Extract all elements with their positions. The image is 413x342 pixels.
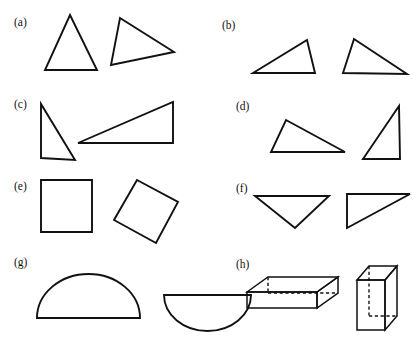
congruent-figures-diagram: (a) (b) (c) (d) (e) bbox=[0, 0, 413, 342]
triangle-b-left bbox=[253, 40, 315, 73]
prism-h-upright-front-face bbox=[357, 280, 385, 330]
square-e-left bbox=[41, 180, 92, 232]
semicircle-g-right bbox=[164, 295, 251, 331]
prism-h-upright bbox=[357, 266, 397, 330]
triangle-c-left bbox=[41, 104, 75, 160]
prism-h-flat-top-face bbox=[247, 277, 338, 292]
semicircle-g-left bbox=[37, 274, 140, 318]
triangle-d-left bbox=[271, 120, 345, 152]
panel-b: (b) bbox=[222, 19, 407, 74]
triangle-a-right bbox=[111, 18, 174, 65]
panel-h-label: (h) bbox=[236, 258, 250, 271]
prism-h-flat-front-face bbox=[247, 292, 317, 308]
panel-e-label: (e) bbox=[14, 180, 27, 193]
figure-sheet: (a) (b) (c) (d) (e) bbox=[0, 0, 413, 342]
panel-b-label: (b) bbox=[222, 19, 236, 32]
panel-c-label: (c) bbox=[14, 98, 27, 111]
triangle-b-right bbox=[343, 39, 407, 74]
prism-h-upright-right-face bbox=[385, 266, 397, 330]
triangle-f-left bbox=[255, 196, 329, 228]
prism-h-flat bbox=[247, 277, 338, 308]
triangle-a-left bbox=[45, 15, 97, 70]
panel-d-label: (d) bbox=[236, 100, 250, 113]
triangle-c-right bbox=[78, 102, 173, 143]
panel-f: (f) bbox=[236, 182, 410, 228]
triangle-f-right bbox=[347, 194, 410, 228]
panel-g-label: (g) bbox=[14, 256, 28, 269]
panel-e: (e) bbox=[14, 180, 178, 243]
panel-d: (d) bbox=[236, 100, 400, 159]
panel-g: (g) bbox=[14, 256, 251, 331]
panel-a: (a) bbox=[14, 15, 174, 70]
square-e-right bbox=[114, 180, 178, 243]
panel-f-label: (f) bbox=[236, 182, 248, 195]
triangle-d-right bbox=[363, 106, 400, 159]
panel-h: (h) bbox=[236, 258, 397, 330]
panel-c: (c) bbox=[14, 98, 173, 160]
panel-a-label: (a) bbox=[14, 16, 27, 29]
